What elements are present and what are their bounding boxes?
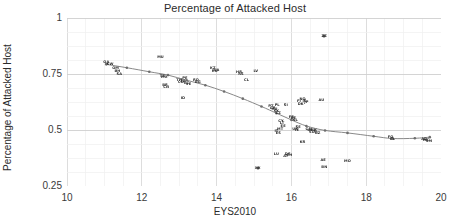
trend-line: [67, 18, 441, 186]
chart-figure: Percentage of Attacked Host Percentage o…: [0, 0, 470, 224]
y-tick-label: 0.25: [18, 181, 62, 191]
y-axis-title: Percentage of Attacked Host: [2, 13, 13, 203]
y-tick-label: 0.75: [18, 69, 62, 79]
y-tick-label: 1: [18, 13, 62, 23]
x-tick-label: 16: [271, 193, 311, 203]
x-tick-label: 20: [421, 193, 461, 203]
x-axis-title: EYS2010: [0, 206, 470, 217]
plot-area: QAKWOMBHSAMUTRMXBRCNTHCOZAPEECVEIDROBGKZ…: [67, 18, 441, 186]
chart-title: Percentage of Attacked Host: [0, 2, 470, 14]
x-tick-label: 14: [197, 193, 237, 203]
x-tick-label: 12: [122, 193, 162, 203]
y-tick-label: 0.5: [18, 125, 62, 135]
x-tick-label: 10: [47, 193, 87, 203]
x-tick-label: 18: [346, 193, 386, 203]
